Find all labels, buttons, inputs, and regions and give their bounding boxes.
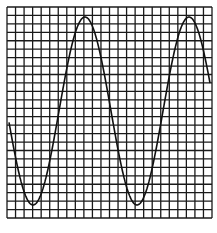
sine-wave-grid-figure (0, 0, 217, 233)
grid-lines (7, 7, 212, 218)
grid-canvas (0, 0, 217, 233)
